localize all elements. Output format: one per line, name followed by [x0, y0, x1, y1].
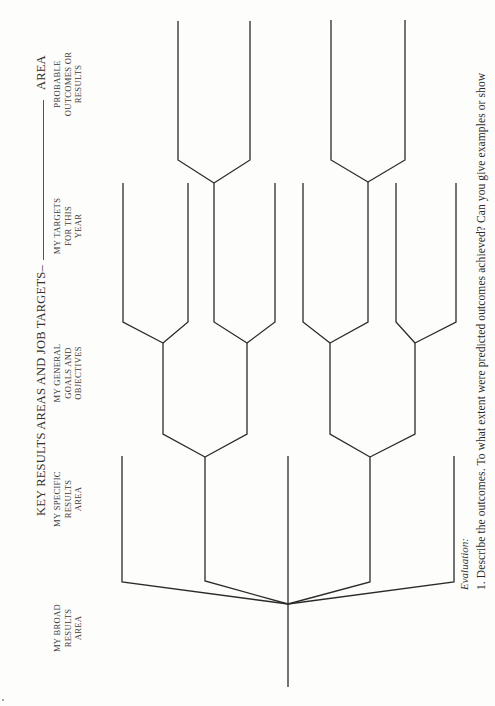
tree-branch [415, 183, 456, 343]
tree-branch [396, 183, 415, 343]
rotated-worksheet-page: KEY RESULTS AREAS AND JOB TARGETS– AREA … [0, 0, 495, 706]
tree-branch [123, 183, 163, 343]
tree-branch [205, 343, 247, 457]
tree-branch [370, 343, 415, 457]
column-label-general-goals: MY GENERAL GOALS AND OBJECTIVES [52, 334, 84, 412]
column-label-line: AREA [73, 463, 84, 535]
tree-branch [214, 21, 250, 183]
column-label-line: PROBABLE [52, 44, 63, 124]
column-label-line: MY BROAD [52, 596, 63, 660]
scan-speck [2, 699, 4, 701]
area-label: AREA [34, 55, 49, 90]
tree-branch [303, 183, 330, 343]
column-label-line: MY TARGETS [52, 190, 63, 262]
tree-branch [163, 343, 205, 457]
column-label-line: MY SPECIFIC [52, 463, 63, 535]
column-label-broad-results-area: MY BROAD RESULTS AREA [52, 596, 84, 660]
column-label-probable-outcomes: PROBABLE OUTCOMES OR RESULTS [52, 44, 84, 124]
tree-branch [368, 20, 405, 182]
column-label-line: YEAR [73, 190, 84, 262]
column-label-line: AREA [73, 596, 84, 660]
tree-branch [288, 456, 454, 604]
tree-branch [205, 457, 288, 604]
column-label-line: OBJECTIVES [73, 334, 84, 412]
column-label-line: GOALS AND [63, 334, 74, 412]
tree-branch [331, 20, 368, 182]
column-label-line: RESULTS [63, 596, 74, 660]
tree-branch [214, 183, 247, 343]
evaluation-heading: Evaluation: [458, 538, 470, 590]
column-label-specific-results-area: MY SPECIFIC RESULTS AREA [52, 463, 84, 535]
area-fill-in-blank [43, 100, 44, 260]
column-label-line: OUTCOMES OR [63, 44, 74, 124]
column-label-line: MY GENERAL [52, 334, 63, 412]
tree-branch [163, 183, 188, 343]
tree-branch [330, 182, 368, 343]
column-label-targets-this-year: MY TARGETS FOR THIS YEAR [52, 190, 84, 262]
column-label-line: FOR THIS [63, 190, 74, 262]
column-label-line: RESULTS [63, 463, 74, 535]
tree-branch [247, 183, 275, 343]
column-label-line: RESULTS [73, 44, 84, 124]
tree-branch [330, 343, 370, 457]
tree-branch [178, 21, 214, 183]
evaluation-item-1: 1. Describe the outcomes. To what extent… [475, 73, 487, 590]
worksheet-title: KEY RESULTS AREAS AND JOB TARGETS– [34, 265, 49, 516]
tree-branch [288, 457, 370, 604]
